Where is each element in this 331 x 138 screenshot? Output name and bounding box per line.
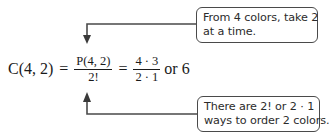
callout-bottom-line-2: ways to order 2 colors.: [204, 114, 313, 128]
formula-result: 6: [182, 60, 190, 78]
combination-formula: C(4, 2) = P(4, 2) 2! = 4 · 3 2 · 1 or 6: [8, 52, 190, 86]
callout-top-line-2: at a time.: [203, 25, 311, 39]
fraction-denominator: 2 · 1: [135, 70, 158, 84]
equals-sign: =: [59, 60, 68, 78]
fraction-numerator: 4 · 3: [133, 55, 160, 70]
formula-lhs: C(4, 2): [8, 60, 53, 78]
bottom-connector-arrow: [83, 92, 197, 114]
callout-top-line-1: From 4 colors, take 2: [203, 11, 311, 25]
callout-ways-to-order: There are 2! or 2 · 1 ways to order 2 co…: [197, 96, 320, 132]
product-fraction: 4 · 3 2 · 1: [133, 55, 160, 84]
arrow-up-icon: [83, 92, 91, 102]
callout-bottom-line-1: There are 2! or 2 · 1: [204, 100, 313, 114]
fraction-denominator: 2!: [88, 70, 98, 84]
equals-sign: =: [118, 60, 127, 78]
permutation-fraction: P(4, 2) 2!: [74, 55, 112, 84]
fraction-numerator: P(4, 2): [74, 55, 112, 70]
arrow-down-icon: [83, 35, 91, 44]
top-connector-arrow: [83, 24, 196, 44]
formula-conjunction: or: [164, 60, 177, 78]
callout-take-2-at-a-time: From 4 colors, take 2 at a time.: [196, 7, 318, 43]
